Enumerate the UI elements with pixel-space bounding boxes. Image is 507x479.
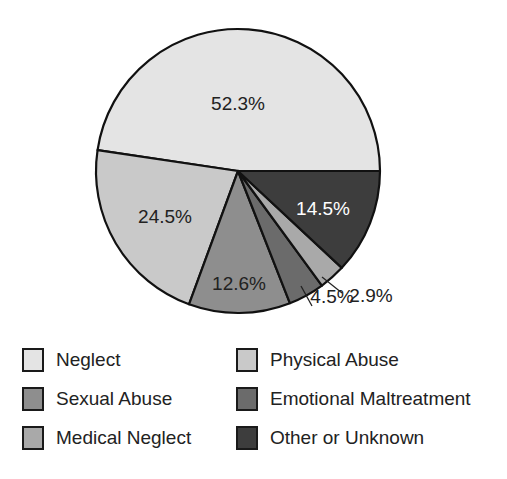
legend-label: Other or Unknown — [270, 427, 424, 449]
legend-swatch — [236, 348, 258, 372]
slice-label-sexual-abuse: 12.6% — [212, 273, 266, 294]
legend-swatch — [236, 426, 258, 450]
slice-label-medical-neglect: 2.9% — [349, 285, 392, 306]
slice-label-emotional-maltreatment: 4.5% — [310, 286, 353, 307]
slice-label-other-or-unknown: 14.5% — [296, 198, 350, 219]
legend-label: Medical Neglect — [56, 427, 191, 449]
legend-swatch — [236, 387, 258, 411]
slice-label-physical-abuse: 24.5% — [138, 206, 192, 227]
legend-label: Neglect — [56, 349, 120, 371]
pie-slices — [96, 29, 380, 313]
pie-chart: 52.3%24.5%12.6%4.5%2.9%14.5% — [0, 0, 507, 340]
legend-swatch — [22, 426, 44, 450]
legend-item-medical-neglect: Medical Neglect — [22, 424, 191, 452]
slice-label-neglect: 52.3% — [211, 93, 265, 114]
legend-item-neglect: Neglect — [22, 346, 120, 374]
legend-label: Physical Abuse — [270, 349, 399, 371]
legend-item-physical-abuse: Physical Abuse — [236, 346, 399, 374]
legend-swatch — [22, 387, 44, 411]
legend-item-emotional-maltreatment: Emotional Maltreatment — [236, 385, 471, 413]
legend-label: Emotional Maltreatment — [270, 388, 471, 410]
legend-label: Sexual Abuse — [56, 388, 172, 410]
legend-swatch — [22, 348, 44, 372]
legend-item-sexual-abuse: Sexual Abuse — [22, 385, 172, 413]
legend-item-other-or-unknown: Other or Unknown — [236, 424, 424, 452]
